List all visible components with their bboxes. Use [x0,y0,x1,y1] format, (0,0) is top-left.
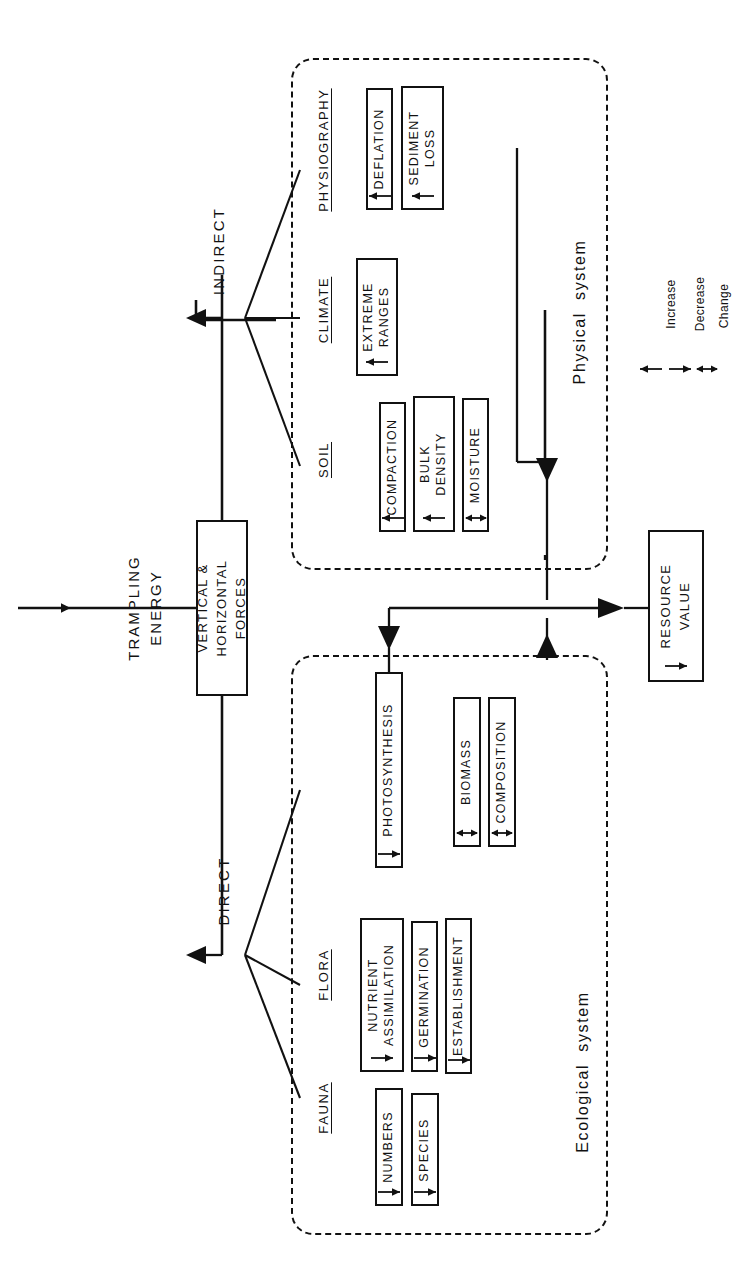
driver-box-vertical-horizontal-forces[interactable]: VERTICAL & HORIZONTAL FORCES [196,520,248,696]
photosynthesis-arrowhead [378,626,400,650]
variable-box-compaction[interactable]: COMPACTION [379,402,406,532]
legend-label-change: Change [715,266,733,346]
system-label-ecological: Ecological system [571,967,595,1177]
variable-label-photosynthesis: PHOTOSYNTHESIS [381,703,397,836]
variable-box-composition[interactable]: COMPOSITION [488,697,516,847]
effect-icon-increase [367,190,393,202]
effect-icon-change [489,827,515,839]
variable-label-establishment: ESTABLISHMENT [451,936,467,1056]
effect-icon-decrease [412,1186,438,1198]
resource-value-arrowhead [598,598,624,618]
effect-icon-increase [364,356,390,368]
outcome-box-resource-value[interactable]: RESOURCE VALUE [648,530,704,682]
legend-label-decrease: Decrease [691,261,709,347]
legend: Increase Decrease Change [630,255,740,425]
legend-icon-change [694,363,720,375]
effect-icon-decrease [369,1052,395,1064]
variable-box-establishment[interactable]: ESTABLISHMENT [445,918,472,1074]
variable-label-extreme-ranges: EXTREME RANGES [361,282,392,352]
outcome-box-label: RESOURCE VALUE [657,564,695,649]
variable-label-composition: COMPOSITION [494,720,510,823]
variable-box-moisture[interactable]: MOISTURE [462,398,489,532]
variable-box-sediment-loss[interactable]: SEDIMENT LOSS [401,86,444,210]
effect-icon-change [463,512,489,524]
effect-icon-decrease [446,1054,472,1066]
variable-label-numbers: NUMBERS [381,1111,397,1183]
effect-icon-increase [421,512,447,524]
effect-icon-increase [410,190,436,202]
variable-box-extreme-ranges[interactable]: EXTREME RANGES [356,258,398,376]
legend-icon-decrease [667,363,693,375]
driver-box-label: VERTICAL & HORIZONTAL FORCES [194,560,251,657]
category-label-flora: FLORA [313,939,333,1011]
variable-label-moisture: MOISTURE [468,427,484,503]
effect-icon-decrease [376,848,402,860]
effect-icon-decrease [663,660,689,672]
variable-box-deflation[interactable]: DEFLATION [366,88,393,210]
effect-icon-increase [380,512,406,524]
category-label-soil: SOIL [313,425,333,495]
page-title: TRAMPLING ENERGY [97,523,193,693]
variable-box-species[interactable]: SPECIES [411,1093,439,1206]
variable-label-species: SPECIES [417,1118,433,1181]
variable-box-germination[interactable]: GERMINATION [411,921,438,1072]
effect-icon-decrease [376,1186,402,1198]
variable-box-photosynthesis[interactable]: PHOTOSYNTHESIS [375,672,403,868]
variable-box-bulk-density[interactable]: BULK DENSITY [413,396,455,532]
variable-label-bulk-density: BULK DENSITY [418,432,449,495]
branch-label-direct: DIRECT [212,831,234,951]
branch-label-indirect: INDIRECT [207,186,229,316]
diagram-canvas: TRAMPLING ENERGY VERTICAL & HORIZONTAL F… [0,0,747,1286]
effect-icon-decrease [412,1052,438,1064]
variable-box-numbers[interactable]: NUMBERS [375,1088,403,1206]
variable-label-sediment-loss: SEDIMENT LOSS [407,111,438,186]
variable-label-biomass: BIOMASS [459,739,475,805]
variable-label-deflation: DEFLATION [372,109,388,190]
variable-label-germination: GERMINATION [417,946,433,1048]
legend-label-increase: Increase [662,261,680,347]
variable-box-biomass[interactable]: BIOMASS [453,697,481,847]
category-label-physiography: PHYSIOGRAPHY [313,88,333,212]
variable-label-compaction: COMPACTION [385,419,401,516]
direct-arrowhead [186,946,206,964]
effect-icon-change [454,827,480,839]
category-label-climate: CLIMATE [313,265,333,355]
legend-icon-increase [638,363,664,375]
variable-box-nutrient-assimilation[interactable]: NUTRIENT ASSIMILATION [360,918,404,1072]
system-label-physical: Physical system [568,222,592,402]
variable-label-nutrient-assimilation: NUTRIENT ASSIMILATION [366,944,397,1046]
category-label-fauna: FAUNA [313,1068,333,1148]
